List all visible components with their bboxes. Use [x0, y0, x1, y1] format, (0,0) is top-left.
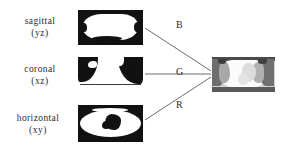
view-label-sagittal: sagittal (yz): [2, 15, 78, 39]
view-axes-coronal: (xz): [2, 75, 78, 87]
horizontal-region-center-blob-tail: [102, 121, 110, 129]
view-label-coronal: coronal (xz): [2, 63, 78, 87]
connector-line-blue: [145, 28, 211, 71]
sagittal-notch-right: [134, 22, 140, 32]
view-axes-horizontal: (xy): [0, 124, 76, 136]
view-axes-sagittal: (yz): [2, 27, 78, 39]
coronal-baseline-rule: [80, 84, 141, 85]
view-label-horizontal-text: horizontal: [17, 113, 60, 123]
view-label-horizontal: horizontal (xy): [0, 112, 76, 136]
horizontal-region-top-band: [92, 108, 128, 112]
channel-label-red: R: [176, 100, 183, 110]
channel-label-blue: B: [176, 20, 183, 30]
view-label-sagittal-text: sagittal: [25, 16, 56, 26]
sagittal-notch-left: [81, 23, 87, 32]
slice-image-horizontal: [78, 105, 143, 142]
composite-notch-top-left: [218, 59, 226, 64]
composite-region-center-light: [238, 73, 249, 85]
composite-region-left-mid: [219, 61, 230, 83]
channel-label-green: G: [176, 67, 183, 77]
composite-band-bottom: [212, 87, 275, 92]
slice-image-sagittal: [78, 10, 143, 45]
coronal-region-left-notch: [88, 61, 97, 68]
figure-panel: sagittal (yz) coronal (xz) horizontal (x…: [0, 0, 285, 153]
slice-image-coronal: [78, 57, 143, 92]
view-label-coronal-text: coronal: [24, 64, 55, 74]
composite-image: [212, 57, 275, 92]
composite-notch-top-right: [258, 59, 267, 64]
sagittal-notch-bottom: [92, 36, 122, 41]
